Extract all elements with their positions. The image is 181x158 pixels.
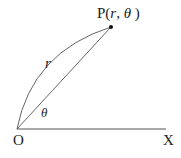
radius-chord	[17, 27, 111, 129]
polar-coordinate-diagram: P(r, θ ) r θ O X	[0, 0, 181, 158]
origin-label: O	[13, 133, 24, 148]
diagram-lines	[0, 0, 181, 158]
radius-label: r	[45, 56, 51, 71]
axis-x-label: X	[163, 133, 174, 148]
close-paren: )	[135, 5, 140, 21]
point-p-dot	[109, 25, 113, 29]
point-theta: θ	[124, 5, 131, 21]
point-p-label: P(r, θ )	[97, 6, 140, 21]
angle-label: θ	[41, 106, 47, 119]
comma: ,	[116, 5, 120, 21]
